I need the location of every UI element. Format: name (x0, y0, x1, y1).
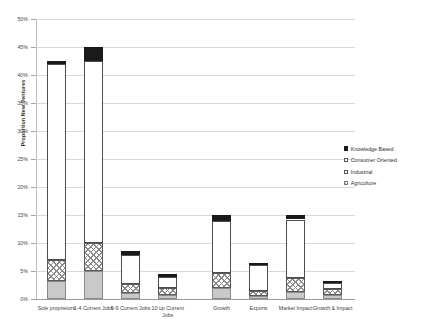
bar-segment-agriculture[interactable] (212, 288, 231, 299)
y-axis-tick-label: 35% (17, 100, 28, 106)
legend-item[interactable]: Industrial (344, 168, 432, 175)
plot-area: 0%5%10%15%20%25%30%35%40%45%50% (36, 19, 355, 299)
y-axis-tick-label: 30% (17, 128, 28, 134)
bar-segment-industrial[interactable] (249, 291, 268, 296)
y-axis-title: Proportion New Ventures (20, 53, 26, 173)
bar-segment-agriculture[interactable] (47, 281, 66, 299)
y-axis-tick-label: 20% (17, 184, 28, 190)
bar-segment-consumer[interactable] (47, 64, 66, 261)
bar-group[interactable] (323, 19, 342, 299)
bar-segment-knowledge[interactable] (84, 47, 103, 61)
stacked-bar[interactable] (249, 19, 268, 299)
bar-segment-consumer[interactable] (323, 283, 342, 289)
legend-item[interactable]: Consumer Oriented (344, 157, 432, 164)
legend-label: Agriculture (351, 180, 376, 186)
legend-item[interactable]: Knowledge Based (344, 145, 432, 152)
bar-group[interactable] (158, 19, 177, 299)
gridline (36, 299, 355, 300)
x-axis-labels: Sole proprietors1-4 Current Jobs5-9 Curr… (36, 302, 355, 330)
x-axis-label: 10 up Current Jobs (146, 305, 190, 320)
bar-segment-consumer[interactable] (84, 61, 103, 243)
bar-segment-knowledge[interactable] (249, 263, 268, 265)
bar-segment-agriculture[interactable] (286, 292, 305, 299)
legend-swatch-icon (344, 158, 348, 162)
bar-segment-consumer[interactable] (249, 265, 268, 291)
stacked-bar[interactable] (323, 19, 342, 299)
bar-segment-industrial[interactable] (286, 278, 305, 293)
bar-segment-agriculture[interactable] (158, 295, 177, 299)
bar-segment-knowledge[interactable] (286, 215, 305, 219)
stacked-bar-chart: Proportion New Ventures 0%5%10%15%20%25%… (0, 0, 432, 331)
bar-segment-knowledge[interactable] (47, 61, 66, 64)
stacked-bar[interactable] (286, 19, 305, 299)
bar-segment-industrial[interactable] (323, 289, 342, 295)
bar-group[interactable] (286, 19, 305, 299)
bar-group[interactable] (47, 19, 66, 299)
bar-segment-agriculture[interactable] (121, 293, 140, 299)
legend-swatch-icon (344, 181, 348, 185)
legend-item[interactable]: Agriculture (344, 180, 432, 187)
legend-swatch-icon (344, 146, 348, 150)
x-axis-label: Growth & Impact (311, 305, 355, 312)
y-axis-tick-label: 45% (17, 44, 28, 50)
stacked-bar[interactable] (84, 19, 103, 299)
bar-group[interactable] (121, 19, 140, 299)
bar-segment-consumer[interactable] (286, 220, 305, 278)
bar-segment-knowledge[interactable] (121, 251, 140, 254)
bar-segment-consumer[interactable] (121, 255, 140, 285)
y-axis-tick-label: 25% (17, 156, 28, 162)
bar-segment-agriculture[interactable] (323, 295, 342, 299)
legend-label: Industrial (351, 169, 373, 175)
bar-segment-consumer[interactable] (158, 277, 177, 288)
bar-segment-industrial[interactable] (212, 273, 231, 288)
stacked-bar[interactable] (158, 19, 177, 299)
y-axis-tick (31, 299, 36, 300)
bar-series-container (36, 19, 355, 299)
legend-swatch-icon (344, 170, 348, 174)
bar-segment-knowledge[interactable] (323, 281, 342, 283)
bar-segment-industrial[interactable] (158, 288, 177, 295)
y-axis-tick-label: 10% (17, 240, 28, 246)
y-axis-tick-label: 50% (17, 16, 28, 22)
stacked-bar[interactable] (47, 19, 66, 299)
y-axis-tick-label: 0% (20, 296, 28, 302)
stacked-bar[interactable] (212, 19, 231, 299)
bar-group[interactable] (249, 19, 268, 299)
bar-segment-industrial[interactable] (47, 260, 66, 280)
stacked-bar[interactable] (121, 19, 140, 299)
legend-label: Consumer Oriented (351, 157, 397, 163)
bar-segment-industrial[interactable] (84, 243, 103, 271)
bar-group[interactable] (212, 19, 231, 299)
y-axis-tick-label: 40% (17, 72, 28, 78)
y-axis-tick-label: 15% (17, 212, 28, 218)
bar-segment-consumer[interactable] (212, 221, 231, 273)
bar-segment-agriculture[interactable] (249, 296, 268, 299)
bar-segment-knowledge[interactable] (158, 274, 177, 277)
chart-legend: Knowledge BasedConsumer OrientedIndustri… (344, 145, 432, 191)
y-axis-tick-label: 5% (20, 268, 28, 274)
bar-segment-agriculture[interactable] (84, 271, 103, 299)
bar-segment-knowledge[interactable] (212, 215, 231, 221)
legend-label: Knowledge Based (351, 146, 394, 152)
bar-group[interactable] (84, 19, 103, 299)
bar-segment-industrial[interactable] (121, 284, 140, 293)
